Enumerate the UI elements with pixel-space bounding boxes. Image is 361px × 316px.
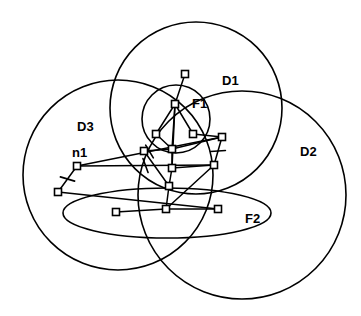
- edge-tick-mark: [60, 177, 74, 181]
- graph-node: [219, 134, 226, 141]
- node-labels-group: n1: [72, 145, 87, 160]
- graph-node: [169, 146, 176, 153]
- edge-line: [175, 74, 185, 104]
- edge-line: [144, 151, 169, 186]
- graph-node: [190, 131, 197, 138]
- graph-node: [182, 71, 189, 78]
- graph-node: [172, 101, 179, 108]
- region-label-d2: D2: [300, 144, 317, 159]
- region-label-d1: D1: [222, 73, 239, 88]
- graph-node: [166, 183, 173, 190]
- edge-line: [193, 134, 222, 137]
- graph-node: [169, 165, 176, 172]
- region-label-d3: D3: [77, 119, 94, 134]
- diagram-canvas: D1 D2 D3 F1 F2 n1: [0, 0, 361, 316]
- region-outlines-group: [23, 22, 346, 299]
- sub-region-outlines-group: [63, 85, 271, 238]
- edge-line: [116, 209, 166, 212]
- graph-node: [55, 189, 62, 196]
- graph-node: [153, 131, 160, 138]
- edges-group: [58, 74, 222, 212]
- sub-region-label-f1: F1: [192, 96, 207, 111]
- graph-node: [215, 206, 222, 213]
- sub-region-label-f2: F2: [245, 211, 260, 226]
- node-label-n1: n1: [72, 145, 87, 160]
- diagram-svg: D1 D2 D3 F1 F2 n1: [0, 0, 361, 316]
- edge-tick-mark: [211, 151, 226, 152]
- graph-node: [211, 162, 218, 169]
- graph-node: [113, 209, 120, 216]
- graph-node: [141, 148, 148, 155]
- graph-node: [74, 163, 81, 170]
- graph-node: [163, 206, 170, 213]
